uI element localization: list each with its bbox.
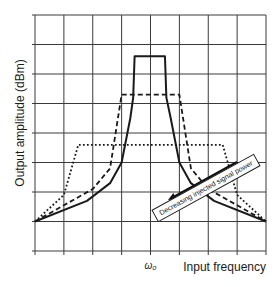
annotation-label-box: Decreasing injected signal power: [152, 154, 260, 221]
x-tick-label-omega0: ω₀: [144, 260, 156, 271]
annotation-group: Decreasing injected signal power: [152, 154, 260, 221]
grid: [32, 15, 266, 251]
chart: Decreasing injected signal power Output …: [0, 0, 278, 287]
axis-ticks: [35, 251, 266, 255]
x-axis-label: Input frequency: [183, 260, 266, 274]
annotation-label: Decreasing injected signal power: [158, 158, 255, 217]
y-axis-label: Output amplitude (dBm): [13, 59, 27, 186]
